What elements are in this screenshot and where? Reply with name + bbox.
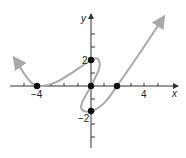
point-2-0 xyxy=(114,83,120,89)
y-axis-label: y xyxy=(80,13,87,24)
x-axis-label: x xyxy=(171,88,178,99)
graph: −4 4 2 −2 x y xyxy=(0,0,186,158)
point-0-2 xyxy=(88,57,94,63)
x-tick-label-neg4: −4 xyxy=(31,89,43,100)
x-tick-label-4: 4 xyxy=(141,89,147,100)
y-tick-label-neg2: −2 xyxy=(78,113,90,124)
y-tick-label-2: 2 xyxy=(82,55,88,66)
point-0-0 xyxy=(88,83,94,89)
